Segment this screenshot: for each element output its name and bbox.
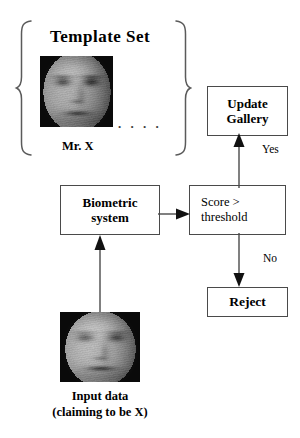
- connector-score-to-update-gallery: [231, 130, 247, 188]
- subject-label: Mr. X: [62, 140, 93, 153]
- input-data-subcaption: (claiming to be X): [0, 406, 200, 419]
- input-data-caption: Input data: [0, 390, 200, 403]
- template-face-photo-icon: [40, 56, 113, 127]
- template-ellipsis: . . . .: [118, 117, 162, 130]
- edge-label-no: No: [263, 253, 277, 265]
- diagram-canvas: Template Set . . . . Mr. X Update Galler…: [0, 0, 300, 438]
- update-gallery-box[interactable]: Update Gallery: [207, 86, 288, 136]
- template-set-title: Template Set: [50, 28, 150, 45]
- score-threshold-line1: Score >: [201, 195, 240, 210]
- biometric-system-line2: system: [91, 210, 129, 225]
- biometric-system-box[interactable]: Biometric system: [60, 185, 160, 235]
- left-curly-brace-icon: [14, 19, 34, 157]
- reject-line1: Reject: [229, 294, 266, 310]
- edge-label-yes: Yes: [262, 144, 279, 156]
- reject-box[interactable]: Reject: [207, 287, 288, 317]
- connector-input-to-biometric: [92, 232, 108, 312]
- score-threshold-line2: threshold: [201, 210, 248, 225]
- connector-score-to-reject: [231, 233, 247, 289]
- score-threshold-decision-box[interactable]: Score > threshold: [189, 185, 286, 235]
- right-curly-brace-icon: [173, 19, 193, 157]
- update-gallery-line2: Gallery: [227, 111, 269, 126]
- connector-biometric-to-score: [158, 205, 192, 223]
- update-gallery-line1: Update: [227, 96, 267, 111]
- biometric-system-line1: Biometric: [83, 195, 138, 210]
- input-face-photo-icon: [60, 312, 140, 382]
